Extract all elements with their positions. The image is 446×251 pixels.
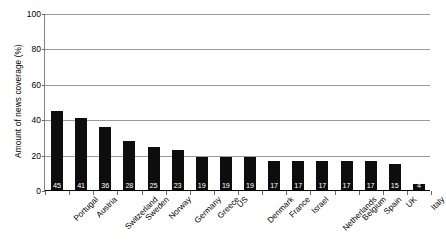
bar[interactable]: 25: [148, 147, 160, 191]
bar-value-label: 36: [99, 182, 111, 190]
bar-value-label: 19: [244, 182, 256, 190]
y-tick-label: 100: [27, 9, 41, 19]
y-axis-title: Amount of news coverage (%): [13, 6, 23, 196]
bar-value-label: 17: [365, 182, 377, 190]
bar-value-label: 25: [148, 182, 160, 190]
bar-value-label: 23: [172, 182, 184, 190]
bar-value-label: 17: [341, 182, 353, 190]
bar-value-label: 4: [413, 182, 425, 190]
bar[interactable]: 28: [123, 141, 135, 191]
bar[interactable]: 17: [365, 161, 377, 191]
bar[interactable]: 19: [220, 157, 232, 191]
bar[interactable]: 45: [51, 111, 63, 191]
bar[interactable]: 19: [196, 157, 208, 191]
y-tick-label: 0: [36, 186, 41, 196]
bar[interactable]: 41: [75, 118, 87, 191]
x-axis-label: Portugal: [72, 195, 100, 223]
y-tick-label: 20: [32, 151, 41, 161]
bar[interactable]: 19: [244, 157, 256, 191]
bar-value-label: 28: [123, 182, 135, 190]
y-tick-label: 40: [32, 115, 41, 125]
x-axis-labels: PortugalAustriaSwitzerlandSwedenNorwayGe…: [44, 195, 430, 251]
x-axis-line: [45, 190, 430, 191]
x-axis-label: Israel: [310, 195, 331, 216]
bar-value-label: 19: [196, 182, 208, 190]
bar-value-label: 17: [268, 182, 280, 190]
bar-value-label: 17: [316, 182, 328, 190]
bar[interactable]: 17: [268, 161, 280, 191]
y-tick-label: 80: [32, 44, 41, 54]
bars-layer: 4541362825231919191717171717154: [45, 14, 430, 191]
bar[interactable]: 17: [292, 161, 304, 191]
bar[interactable]: 17: [316, 161, 328, 191]
bar-value-label: 19: [220, 182, 232, 190]
bar[interactable]: 15: [389, 164, 401, 191]
y-tick-label: 60: [32, 80, 41, 90]
bar[interactable]: 23: [172, 150, 184, 191]
bar[interactable]: 17: [341, 161, 353, 191]
bar-value-label: 15: [389, 182, 401, 190]
bar-value-label: 17: [292, 182, 304, 190]
plot-area: 020406080100 454136282523191919171717171…: [44, 14, 430, 191]
bar-value-label: 41: [75, 182, 87, 190]
bar-value-label: 45: [51, 182, 63, 190]
bar[interactable]: 36: [99, 127, 111, 191]
x-axis-label: Norway: [167, 195, 193, 221]
x-axis-label: Italy: [429, 195, 446, 212]
x-axis-label: UK: [404, 195, 418, 209]
x-tick-mark: [431, 191, 432, 195]
